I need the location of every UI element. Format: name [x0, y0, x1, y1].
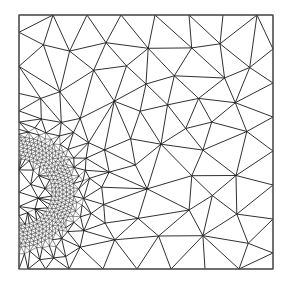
coarse-mesh-edges [19, 15, 273, 269]
domain-border [19, 15, 273, 269]
triangular-mesh-diagram [0, 0, 289, 283]
